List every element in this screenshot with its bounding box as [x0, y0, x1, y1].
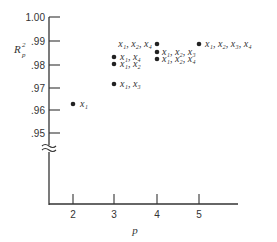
svg-text:3: 3	[111, 209, 117, 220]
svg-text:.97: .97	[31, 83, 45, 94]
svg-text:.99: .99	[31, 36, 45, 47]
point-labels: x₁ x₁, x₃ x₁, x₂ x₁, x₄ x₁, x₂, x₄ x₁, x…	[79, 38, 252, 109]
svg-text:2: 2	[22, 41, 26, 49]
point-x1-x4	[112, 55, 117, 60]
svg-text:.96: .96	[31, 105, 45, 116]
svg-text:x₁, x₂, x₃, x₄: x₁, x₂, x₃, x₄	[204, 38, 252, 49]
x-tick-labels: 2 3 4 5	[70, 209, 202, 220]
svg-text:4: 4	[154, 209, 160, 220]
svg-text:.95: .95	[31, 128, 45, 139]
point-x1-x2-x4	[155, 57, 160, 62]
svg-text:.98: .98	[31, 60, 45, 71]
point-x1-x3	[112, 82, 117, 87]
point-x1	[71, 102, 76, 107]
svg-text:p: p	[21, 51, 26, 59]
axis-break-icon	[42, 145, 56, 152]
svg-text:2: 2	[70, 209, 76, 220]
y-ticks	[49, 17, 60, 133]
svg-text:x₁, x₄: x₁, x₄	[119, 51, 141, 62]
svg-text:5: 5	[196, 209, 202, 220]
svg-text:x₁, x₃: x₁, x₃	[119, 78, 141, 89]
svg-text:x₁: x₁	[79, 98, 88, 109]
svg-text:x₁, x₂, x₄: x₁, x₂, x₄	[117, 38, 152, 49]
point-x1-x2-x3-x4	[197, 42, 202, 47]
point-x1-x2-x4-top	[155, 42, 160, 47]
x-ticks	[73, 194, 199, 204]
point-x1-x2	[112, 62, 117, 67]
svg-text:R: R	[13, 43, 21, 55]
svg-text:x₁, x₂, x₄: x₁, x₂, x₄	[161, 53, 196, 64]
y-axis-title: R 2 p	[13, 41, 26, 59]
scatter-chart: 1.00 .99 .98 .97 .96 .95 2 3 4 5 p R 2 p	[0, 0, 277, 242]
point-x1-x2-x3	[155, 50, 160, 55]
svg-text:1.00: 1.00	[26, 12, 46, 23]
x-axis-title: p	[131, 224, 138, 236]
y-tick-labels: 1.00 .99 .98 .97 .96 .95	[26, 12, 46, 139]
